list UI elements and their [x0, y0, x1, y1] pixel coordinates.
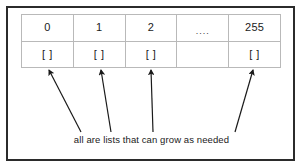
- index-cell-ellipsis: ....: [177, 15, 229, 41]
- index-cell-1: 1: [74, 15, 126, 41]
- table-bucket-row: [ ] [ ] [ ] [ ]: [22, 42, 280, 68]
- index-cell-255: 255: [229, 15, 280, 41]
- index-cell-2: 2: [126, 15, 178, 41]
- table-index-row: 0 1 2 .... 255: [22, 15, 280, 42]
- bucket-cell-255: [ ]: [229, 42, 280, 68]
- index-cell-0: 0: [22, 15, 74, 41]
- bucket-cell-1: [ ]: [74, 42, 126, 68]
- hash-table-grid: 0 1 2 .... 255 [ ] [ ] [ ] [ ]: [21, 14, 281, 68]
- hash-table-diagram: 0 1 2 .... 255 [ ] [ ] [ ] [ ] all are l…: [0, 0, 303, 168]
- bucket-cell-ellipsis: [177, 42, 229, 68]
- bucket-cell-2: [ ]: [126, 42, 178, 68]
- diagram-caption: all are lists that can grow as needed: [0, 134, 303, 145]
- bucket-cell-0: [ ]: [22, 42, 74, 68]
